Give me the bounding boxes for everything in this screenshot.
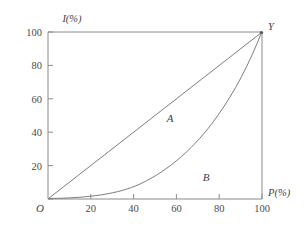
y-tick-label-80: 80 [32,60,43,71]
equality-line [49,33,262,199]
corner-point-label: Y [268,21,275,32]
corner-point-marker [260,31,263,34]
y-tick-label-40: 40 [32,127,43,138]
chart-canvas: I(%) P(%) O Y 100 80 60 40 20 20 40 60 8… [0,0,306,229]
x-tick-label-40: 40 [128,203,139,214]
y-tick-label-100: 100 [26,27,42,38]
origin-label: O [36,202,44,214]
x-tick-label-60: 60 [171,203,182,214]
region-label-a: A [166,112,174,124]
region-label-b: B [203,171,210,183]
x-tick-label-80: 80 [214,203,225,214]
x-tick-label-20: 20 [86,203,97,214]
y-tick-label-20: 20 [32,161,43,172]
x-axis-title: P(%) [267,187,291,199]
y-axis-title: I(%) [61,13,82,25]
lorenz-curve-figure: I(%) P(%) O Y 100 80 60 40 20 20 40 60 8… [0,0,306,229]
y-tick-label-60: 60 [32,94,43,105]
x-tick-label-100: 100 [254,203,270,214]
